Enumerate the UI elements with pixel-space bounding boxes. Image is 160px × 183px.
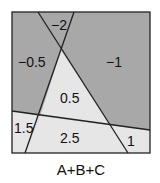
- label-0.5: 0.5: [60, 90, 80, 106]
- label-neg1: −1: [106, 54, 122, 70]
- label-1.5: 1.5: [14, 120, 34, 136]
- region-diagram: −2 −0.5 −1 0.5 1.5 2.5 1 A+B+C: [0, 0, 160, 183]
- caption: A+B+C: [57, 161, 106, 178]
- label-1: 1: [127, 133, 135, 149]
- label-2.5: 2.5: [60, 130, 80, 146]
- label-neg0.5: −0.5: [18, 54, 46, 70]
- label-neg2: −2: [51, 17, 67, 33]
